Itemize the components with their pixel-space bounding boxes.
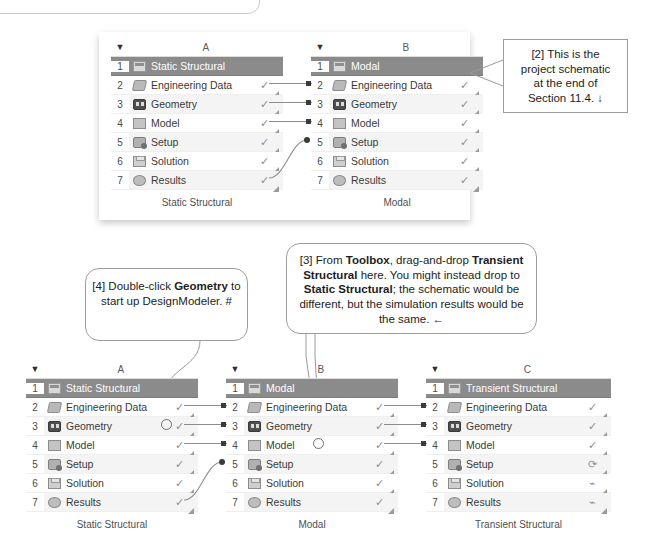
callout-4-bold-geometry: Geometry (174, 280, 228, 292)
callout-3-target-circle-model (313, 438, 324, 449)
resize-grip-icon (472, 98, 483, 110)
project-schematic-panel-top[interactable]: ▼ A 1 Static Structural 2 Engineering Da… (99, 32, 470, 220)
connector-curve-solution-to-setup-bottom (0, 360, 646, 547)
callout-2-line4: Section 11.4. ↓ (509, 91, 622, 106)
connector-curve-solution-to-setup (99, 32, 470, 220)
callout-3-seg2: , drag-and-drop (390, 254, 472, 266)
callout-box-2: [2] This is the project schematic at the… (503, 39, 628, 113)
callout-3-seg1: [3] From (300, 254, 346, 266)
cut-off-callout-box-above (0, 0, 260, 14)
resize-grip-icon (472, 117, 483, 129)
callout-2-line3: at the end of (509, 76, 622, 91)
connector-endpoint-square (421, 441, 426, 446)
resize-grip-icon (472, 174, 483, 186)
connector-endpoint-dot (304, 137, 310, 143)
callout-3-bold-static: Static Structural (304, 283, 393, 295)
resize-grip-icon (472, 155, 483, 167)
callout-2-leader-line (466, 60, 508, 90)
callout-2-line1: [2] This is the (509, 47, 622, 62)
resize-grip-icon (472, 136, 483, 148)
callout-4-seg1: [4] Double-click (92, 280, 174, 292)
callout-4-target-circle-geometry (161, 419, 172, 430)
connector-endpoint-square (421, 403, 426, 408)
callout-2-line2: project schematic (509, 62, 622, 77)
callout-3-bold-toolbox: Toolbox (346, 254, 390, 266)
callout-3-seg3: here. You might instead drop to (357, 269, 519, 281)
connector-endpoint-square (421, 422, 426, 427)
project-schematic-panel-bottom[interactable]: ▼ A 1 Static Structural 2 Engineering Da… (0, 360, 646, 547)
callout-box-3: [3] From Toolbox, drag-and-drop Transien… (286, 243, 537, 334)
connector-endpoint-dot (219, 459, 225, 465)
